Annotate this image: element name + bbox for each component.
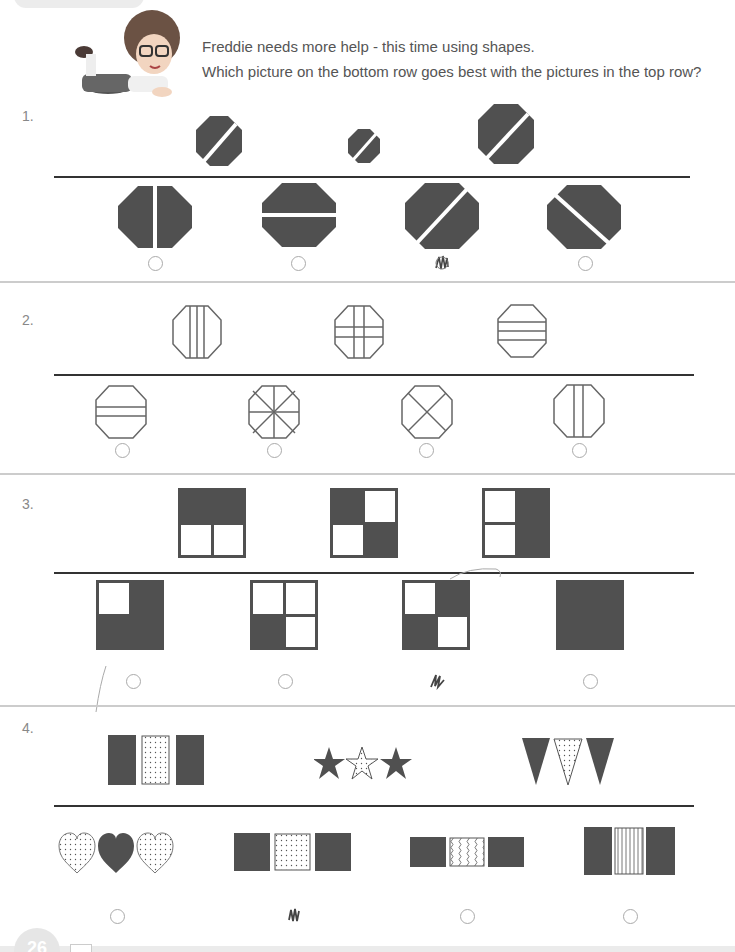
footer-box: [70, 944, 92, 952]
question-number-2: 2.: [22, 312, 34, 328]
q1-top-octagon-3: [478, 104, 534, 164]
question-number-3: 3.: [22, 496, 34, 512]
q2-option-2-radio[interactable]: [267, 443, 282, 458]
header: Freddie needs more help - this time usin…: [70, 8, 730, 108]
q2-top-octagon-2: [334, 305, 384, 359]
q4-option-1-radio[interactable]: [110, 909, 125, 924]
question-number-4: 4.: [22, 720, 34, 736]
q3-option-4-radio[interactable]: [583, 674, 598, 689]
page-number: 26: [14, 928, 60, 952]
q3-option-1-shape[interactable]: [96, 580, 164, 650]
q1-option-1-shape[interactable]: [118, 186, 192, 248]
q3-option-3-radio-marked[interactable]: [428, 672, 446, 690]
q2-option-3-radio[interactable]: [419, 443, 434, 458]
q2-option-1-shape[interactable]: [95, 385, 147, 439]
q2-top-octagon-3: [497, 304, 547, 358]
q1-option-3-radio-marked[interactable]: [433, 254, 451, 272]
q1-top-octagon-2: [348, 129, 380, 163]
q3-option-3-shape[interactable]: [402, 580, 470, 650]
q2-option-3-shape[interactable]: [401, 385, 453, 439]
q3-divider-rule: [54, 572, 694, 574]
freddie-character-illustration: [70, 8, 190, 100]
q3-option-4-shape[interactable]: [556, 580, 624, 650]
q4-top-stars: [314, 746, 412, 782]
q4-option-3-shape[interactable]: [410, 837, 524, 867]
instructions: Freddie needs more help - this time usin…: [202, 34, 701, 84]
q4-top-triangles: [522, 738, 616, 786]
section-separator: [0, 473, 735, 475]
question-number-1: 1.: [22, 108, 34, 124]
q2-option-2-shape[interactable]: [248, 385, 300, 439]
instruction-line-1: Freddie needs more help - this time usin…: [202, 34, 701, 59]
q2-option-1-radio[interactable]: [115, 443, 130, 458]
q2-option-4-shape[interactable]: [553, 384, 605, 438]
q4-option-2-radio-marked[interactable]: [285, 906, 303, 924]
q3-top-square-3: [482, 488, 550, 558]
top-tab-decoration: [14, 0, 144, 8]
q4-option-2-shape[interactable]: [234, 833, 352, 871]
q3-top-square-1: [178, 488, 246, 558]
q4-option-3-radio[interactable]: [460, 909, 475, 924]
q4-option-1-shape[interactable]: [58, 832, 174, 874]
q2-top-octagon-1: [172, 305, 222, 359]
q1-divider-rule: [54, 176, 690, 178]
q3-option-2-shape[interactable]: [250, 580, 318, 650]
q3-top-square-2: [330, 488, 398, 558]
section-separator: [0, 705, 735, 707]
q4-top-rectangles: [108, 735, 206, 785]
q1-option-2-shape[interactable]: [262, 183, 336, 247]
q4-option-4-radio[interactable]: [623, 909, 638, 924]
q3-option-1-radio[interactable]: [126, 674, 141, 689]
q2-option-4-radio[interactable]: [572, 443, 587, 458]
q1-top-octagon-1: [196, 116, 242, 166]
q1-option-1-radio[interactable]: [148, 256, 163, 271]
q4-divider-rule: [54, 805, 694, 807]
q4-option-4-shape[interactable]: [584, 827, 676, 875]
q2-divider-rule: [54, 374, 694, 376]
q3-option-2-radio[interactable]: [278, 674, 293, 689]
q1-option-3-shape[interactable]: [405, 183, 479, 249]
section-separator: [0, 281, 735, 283]
instruction-line-2: Which picture on the bottom row goes bes…: [202, 59, 701, 84]
footer-bar: [0, 946, 735, 952]
q1-option-4-radio[interactable]: [578, 256, 593, 271]
q1-option-4-shape[interactable]: [547, 185, 621, 249]
q1-option-2-radio[interactable]: [291, 256, 306, 271]
